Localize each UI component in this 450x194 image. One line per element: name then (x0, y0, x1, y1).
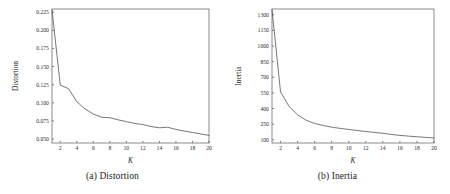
x-tick-label: 8 (330, 145, 333, 151)
y-tick-label: 0.125 (36, 82, 49, 88)
x-tick-label: 6 (313, 145, 316, 151)
x-tick-label: 20 (206, 145, 212, 151)
chart-panel-inertia: 2468101214161820100250400550700850100011… (225, 0, 450, 194)
x-tick-label: 10 (124, 145, 130, 151)
x-tick-label: 14 (157, 145, 163, 151)
y-axis-title: Inertia (234, 66, 243, 86)
figure-container: 24681012141618200.0500.0750.1000.1250.15… (0, 0, 450, 194)
x-tick-label: 2 (59, 145, 62, 151)
x-tick-label: 6 (92, 145, 95, 151)
y-tick-label: 700 (260, 74, 269, 80)
x-tick-label: 18 (414, 145, 420, 151)
x-tick-label: 4 (75, 145, 78, 151)
x-tick-label: 14 (380, 145, 386, 151)
x-tick-label: 20 (431, 145, 437, 151)
plot-frame (272, 9, 434, 143)
y-tick-label: 100 (260, 137, 269, 143)
y-tick-label: 250 (260, 121, 269, 127)
y-tick-label: 1150 (258, 27, 269, 33)
y-tick-label: 1300 (258, 12, 269, 18)
x-axis-title: K (127, 156, 134, 165)
x-tick-label: 12 (363, 145, 369, 151)
caption-distortion: (a) Distortion (0, 171, 225, 181)
y-tick-label: 0.200 (36, 27, 49, 33)
y-tick-label: 0.075 (36, 118, 49, 124)
distortion-chart: 24681012141618200.0500.0750.1000.1250.15… (0, 0, 225, 194)
x-tick-label: 16 (397, 145, 403, 151)
x-tick-label: 18 (190, 145, 196, 151)
caption-inertia: (b) Inertia (225, 171, 450, 181)
data-series-line (272, 10, 434, 138)
y-tick-label: 0.050 (36, 136, 49, 142)
y-tick-label: 0.150 (36, 64, 49, 70)
x-tick-label: 2 (279, 145, 282, 151)
x-tick-label: 12 (140, 145, 146, 151)
y-tick-label: 0.100 (36, 100, 49, 106)
x-tick-label: 4 (296, 145, 299, 151)
y-tick-label: 0.175 (36, 45, 49, 51)
chart-panel-distortion: 24681012141618200.0500.0750.1000.1250.15… (0, 0, 225, 194)
data-series-line (52, 10, 209, 136)
x-tick-label: 10 (346, 145, 352, 151)
x-tick-label: 8 (108, 145, 111, 151)
y-tick-label: 0.225 (36, 9, 49, 15)
inertia-chart: 2468101214161820100250400550700850100011… (225, 0, 450, 194)
y-tick-label: 400 (260, 106, 269, 112)
y-tick-label: 1000 (258, 43, 269, 49)
y-axis-title: Distortion (11, 61, 20, 91)
y-tick-label: 550 (260, 90, 269, 96)
x-tick-label: 16 (173, 145, 179, 151)
y-tick-label: 850 (260, 59, 269, 65)
x-axis-title: K (350, 156, 357, 165)
